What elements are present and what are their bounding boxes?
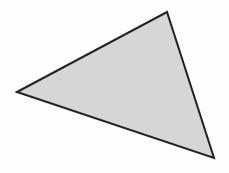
triangle-figure — [0, 0, 229, 173]
triangle-shape — [17, 12, 214, 158]
diagram-canvas — [0, 0, 229, 173]
